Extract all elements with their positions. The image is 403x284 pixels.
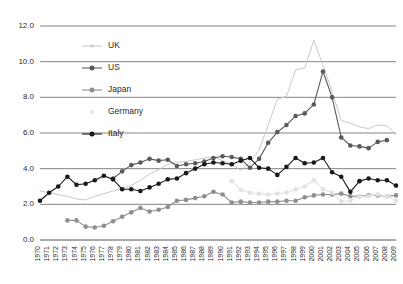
x-tick-label: 1987 (189, 246, 196, 262)
data-point (120, 187, 125, 192)
data-point (375, 178, 380, 183)
data-point (248, 200, 253, 205)
data-point (357, 194, 362, 199)
x-tick-label: 2007 (372, 246, 379, 262)
data-point (220, 192, 225, 197)
x-tick-label: 2003 (335, 246, 342, 262)
x-tick-label: 2001 (317, 246, 324, 262)
data-point (193, 161, 198, 166)
x-tick-label: 1982 (144, 246, 151, 262)
legend-label-japan: Japan (108, 84, 131, 94)
data-point (385, 138, 390, 143)
data-point (65, 218, 70, 223)
data-point (339, 135, 344, 140)
x-tick-label: 1971 (43, 246, 50, 262)
x-tick-label: 1995 (262, 246, 269, 262)
data-point (266, 199, 271, 204)
data-point (165, 177, 170, 182)
series-germany (229, 178, 398, 204)
x-tick-label: 1977 (98, 246, 105, 262)
x-tick-label: 1993 (244, 246, 251, 262)
x-tick-label: 1992 (235, 246, 242, 262)
data-point (83, 182, 88, 187)
data-point (184, 171, 189, 176)
data-point (65, 174, 70, 179)
data-point (102, 223, 107, 228)
y-tick-label: 2.0 (23, 199, 35, 208)
data-point (394, 198, 399, 203)
data-point (394, 193, 399, 198)
legend-item-us[interactable]: US (82, 62, 120, 72)
legend-item-germany[interactable]: Germany (90, 106, 144, 116)
data-point (275, 130, 280, 135)
data-point (375, 140, 380, 145)
data-point (211, 160, 216, 165)
series-italy (38, 156, 399, 203)
line-chart: 0.02.04.06.08.010.012.0 1970197119721973… (0, 0, 403, 284)
data-point (302, 195, 307, 200)
data-point (102, 174, 107, 179)
data-point (92, 225, 97, 230)
data-point (248, 165, 253, 170)
y-axis-labels: 0.02.04.06.08.010.012.0 (18, 21, 34, 244)
data-point (284, 190, 289, 195)
data-point (165, 205, 170, 210)
data-point (211, 156, 216, 161)
data-point (321, 156, 326, 161)
data-point (257, 165, 262, 170)
legend-item-japan[interactable]: Japan (82, 84, 131, 94)
data-point (293, 156, 298, 161)
data-point (312, 193, 317, 198)
data-point (321, 69, 326, 74)
data-point (111, 177, 116, 182)
series-line (67, 192, 396, 228)
legend-marker-us (90, 66, 95, 71)
data-point (366, 176, 371, 181)
x-tick-label: 1997 (280, 246, 287, 262)
x-tick-label: 1996 (271, 246, 278, 262)
data-point (266, 166, 271, 171)
data-point (211, 190, 216, 195)
x-tick-label: 1980 (125, 246, 132, 262)
legend-marker-uk (90, 44, 93, 47)
data-point (302, 161, 307, 166)
data-point (138, 160, 143, 165)
x-tick-label: 2006 (363, 246, 370, 262)
x-tick-label: 1991 (226, 246, 233, 262)
data-point (339, 191, 344, 196)
data-point (47, 190, 52, 195)
data-point (74, 182, 79, 187)
data-point (229, 179, 234, 184)
x-tick-label: 1981 (134, 246, 141, 262)
data-point (339, 174, 344, 179)
data-point (156, 158, 161, 163)
data-point (184, 162, 189, 167)
x-tick-label: 2005 (353, 246, 360, 262)
data-point (229, 155, 234, 160)
data-point (348, 198, 353, 203)
legend-marker-italy (90, 132, 95, 137)
x-tick-label: 1986 (180, 246, 187, 262)
legend-item-uk[interactable]: UK (82, 40, 120, 50)
series-us (111, 69, 389, 181)
data-point (394, 183, 399, 188)
x-tick-label: 1989 (207, 246, 214, 262)
data-point (175, 176, 180, 181)
data-point (239, 188, 244, 193)
data-point (357, 144, 362, 149)
data-point (385, 178, 390, 183)
x-tick-label: 2000 (308, 246, 315, 262)
data-point (257, 200, 262, 205)
data-point (348, 143, 353, 148)
x-tick-label: 1972 (52, 246, 59, 262)
data-point (275, 191, 280, 196)
x-tick-label: 1975 (80, 246, 87, 262)
x-tick-label: 2008 (381, 246, 388, 262)
data-point (156, 182, 161, 187)
data-point (312, 102, 317, 107)
data-point (366, 194, 371, 199)
y-tick-label: 4.0 (23, 164, 35, 173)
legend-label-germany: Germany (108, 106, 144, 116)
data-point (175, 198, 180, 203)
data-point (229, 200, 234, 205)
